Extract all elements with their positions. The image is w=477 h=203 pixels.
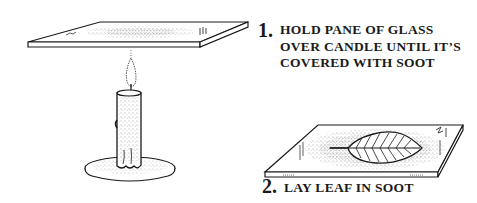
- step-1-number: 1.: [258, 19, 273, 42]
- step-1-line-1: Hold pane of glass: [280, 22, 461, 39]
- step-1-line-3: covered with soot: [280, 55, 461, 72]
- step-2-line-1: Lay leaf in soot: [284, 180, 414, 197]
- candle-flame: [126, 50, 136, 92]
- soot-leaf-print-diagram: 1. Hold pane of glass over candle until …: [0, 0, 477, 203]
- candle: [116, 90, 142, 168]
- glass-pane-top: [28, 22, 248, 47]
- step-2-number: 2.: [262, 175, 277, 198]
- step-1-line-2: over candle until it’s: [280, 39, 461, 56]
